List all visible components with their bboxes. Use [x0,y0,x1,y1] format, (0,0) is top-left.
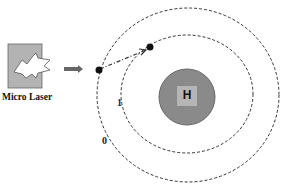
right-arrow-icon [64,65,83,73]
atom-diagram: Micro Laser H 1 0 [0,0,293,188]
nucleus-label: H [179,88,195,102]
orbit-label-inner: 1 [117,97,122,108]
electron-inner [147,44,154,51]
micro-laser-label: Micro Laser [2,92,52,102]
orbit-label-outer: 0 [102,135,107,146]
micro-laser-icon [8,44,50,88]
electron-outer [96,67,103,74]
transition-arrow [100,49,146,69]
